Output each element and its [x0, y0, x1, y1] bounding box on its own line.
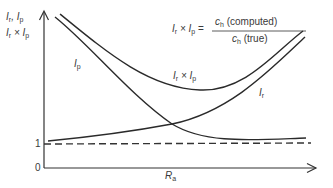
eq-equals: = [195, 23, 204, 34]
y-title2-sep: × I [11, 27, 25, 38]
eq-num-text: (computed) [224, 16, 277, 27]
x-axis-title: Ra [165, 171, 176, 182]
curve-label-ir-times-ip: Ir × Ip [173, 71, 196, 82]
curve-prod-sub-p: p [192, 75, 196, 82]
equation-lhs: Ir × Ip = [172, 24, 204, 35]
y-axis-title-line1: Ir, Ip [6, 12, 23, 23]
curve-ip-sub: p [77, 63, 81, 70]
curve-ir [48, 37, 305, 141]
y-tick-zero: 0 [35, 163, 41, 173]
reference-line-one [44, 143, 311, 144]
equation-denominator: ch (true) [232, 34, 268, 45]
curve-label-ir: Ir [259, 88, 264, 99]
y-title2-sub-p: p [25, 32, 29, 39]
curve-label-ip: Ip [74, 59, 81, 70]
eq-times: × I [177, 23, 191, 34]
y-axis-title-line2: Ir × Ip [6, 28, 29, 39]
equation-numerator: ch (computed) [215, 17, 277, 28]
eq-den-text: (true) [241, 33, 268, 44]
y-tick-one: 1 [35, 139, 41, 149]
curve-prod-times: × I [178, 70, 192, 81]
curve-ir-sub: r [262, 92, 264, 99]
x-title-sub-a: a [172, 175, 176, 182]
y-title-sub-p: p [19, 16, 23, 23]
chart-canvas [0, 0, 333, 188]
